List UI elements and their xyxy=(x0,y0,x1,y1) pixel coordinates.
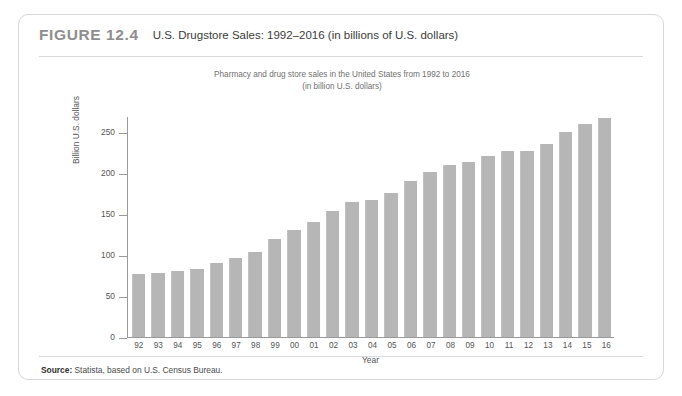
bar-slot xyxy=(304,117,323,337)
x-axis-tick-label: 15 xyxy=(577,341,596,350)
chart-title: Pharmacy and drug store sales in the Uni… xyxy=(19,69,665,81)
source-label: Source: xyxy=(41,365,72,375)
bar-98 xyxy=(248,252,261,337)
bar-13 xyxy=(540,144,553,337)
bar-slot xyxy=(595,117,614,337)
x-axis-tick-label: 99 xyxy=(265,341,284,350)
bar-slot xyxy=(362,117,381,337)
bar-10 xyxy=(481,156,494,337)
bar-slot xyxy=(226,117,245,337)
y-axis-label: Billion U.S. dollars xyxy=(71,96,81,164)
bar-slot xyxy=(498,117,517,337)
figure-title: U.S. Drugstore Sales: 1992–2016 (in bill… xyxy=(153,29,459,41)
figure-number: FIGURE 12.4 xyxy=(39,26,139,44)
bar-slot xyxy=(478,117,497,337)
bar-slot xyxy=(187,117,206,337)
y-axis-tick-label: 150 xyxy=(101,209,115,219)
x-axis-tick-label: 93 xyxy=(148,341,167,350)
bar-slot xyxy=(148,117,167,337)
figure-card: FIGURE 12.4 U.S. Drugstore Sales: 1992–2… xyxy=(18,14,664,380)
y-axis-tick: 200 xyxy=(119,174,127,175)
bar-16 xyxy=(598,118,611,337)
x-axis-tick-label: 95 xyxy=(187,341,206,350)
bar-07 xyxy=(423,172,436,337)
bar-02 xyxy=(326,211,339,337)
bar-94 xyxy=(171,271,184,337)
x-axis-tick-label: 08 xyxy=(441,341,460,350)
y-axis-tick: 250 xyxy=(119,133,127,134)
bar-96 xyxy=(210,263,223,337)
bar-05 xyxy=(384,193,397,337)
bar-slot xyxy=(245,117,264,337)
bar-slot xyxy=(420,117,439,337)
bar-slot xyxy=(440,117,459,337)
figure-header: FIGURE 12.4 U.S. Drugstore Sales: 1992–2… xyxy=(19,15,663,55)
x-axis-tick-label: 02 xyxy=(324,341,343,350)
x-axis-tick-label: 92 xyxy=(129,341,148,350)
bar-slot xyxy=(556,117,575,337)
bar-11 xyxy=(501,151,514,337)
x-axis-tick-label: 10 xyxy=(480,341,499,350)
bar-01 xyxy=(307,222,320,337)
header-divider xyxy=(39,56,643,57)
y-axis-tick: 0 xyxy=(119,338,127,339)
bar-04 xyxy=(365,200,378,338)
y-axis-tick-label: 0 xyxy=(110,332,115,342)
bar-slot xyxy=(517,117,536,337)
source-divider xyxy=(39,356,643,357)
bar-08 xyxy=(443,165,456,337)
y-axis-tick: 100 xyxy=(119,256,127,257)
x-axis-tick-label: 04 xyxy=(363,341,382,350)
x-axis-tick-label: 16 xyxy=(597,341,616,350)
bar-slot xyxy=(537,117,556,337)
x-axis-tick-label: 09 xyxy=(460,341,479,350)
bar-slot xyxy=(323,117,342,337)
bar-slot xyxy=(381,117,400,337)
bar-95 xyxy=(190,269,203,337)
bar-slot xyxy=(168,117,187,337)
x-axis-tick-label: 06 xyxy=(402,341,421,350)
bar-12 xyxy=(520,151,533,337)
bar-93 xyxy=(151,273,164,337)
source-note: Source: Statista, based on U.S. Census B… xyxy=(41,365,223,375)
bar-slot xyxy=(459,117,478,337)
bar-06 xyxy=(404,181,417,337)
bar-slot xyxy=(207,117,226,337)
bar-slot xyxy=(284,117,303,337)
bar-00 xyxy=(287,230,300,337)
source-text: Statista, based on U.S. Census Bureau. xyxy=(72,365,222,375)
x-axis-tick-label: 13 xyxy=(538,341,557,350)
bar-slot xyxy=(129,117,148,337)
y-axis-tick-label: 50 xyxy=(106,291,115,301)
y-axis-line xyxy=(127,117,128,338)
x-axis-tick-label: 98 xyxy=(246,341,265,350)
bar-14 xyxy=(559,132,572,337)
x-axis-tick-label: 01 xyxy=(304,341,323,350)
x-axis-tick-label: 12 xyxy=(519,341,538,350)
y-axis-tick-label: 100 xyxy=(101,250,115,260)
bar-03 xyxy=(345,202,358,337)
bar-97 xyxy=(229,258,242,337)
y-axis-tick: 50 xyxy=(119,297,127,298)
bar-slot xyxy=(575,117,594,337)
bar-slot xyxy=(265,117,284,337)
x-axis-tick-label: 05 xyxy=(382,341,401,350)
x-axis-tick-label: 11 xyxy=(499,341,518,350)
x-axis-tick-labels: 9293949596979899000102030405060708091011… xyxy=(129,341,616,350)
bar-09 xyxy=(462,162,475,337)
x-axis-tick-label: 97 xyxy=(226,341,245,350)
y-axis-tick-label: 250 xyxy=(101,127,115,137)
x-axis-line xyxy=(127,337,614,338)
bar-15 xyxy=(578,124,591,337)
bar-series xyxy=(129,117,614,337)
chart-container: Pharmacy and drug store sales in the Uni… xyxy=(19,59,665,351)
y-axis-tick: 150 xyxy=(119,215,127,216)
bar-99 xyxy=(268,239,281,337)
bar-92 xyxy=(132,274,145,337)
chart-subtitle: (in billion U.S. dollars) xyxy=(19,81,665,93)
x-axis-tick-label: 03 xyxy=(343,341,362,350)
x-axis-tick-label: 07 xyxy=(421,341,440,350)
bar-slot xyxy=(342,117,361,337)
x-axis-tick-label: 96 xyxy=(207,341,226,350)
bar-slot xyxy=(401,117,420,337)
